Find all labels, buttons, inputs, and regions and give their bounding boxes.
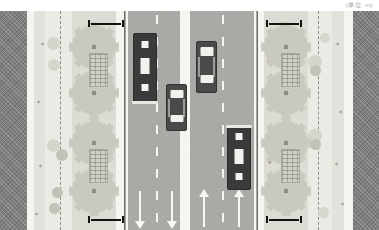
- arrow-shaft: [139, 191, 141, 223]
- planting-bed-right-upper: [281, 53, 300, 87]
- bus-bumper: [132, 101, 158, 104]
- right-property-dashed-line: [318, 11, 319, 230]
- arrow-lane-2: [165, 189, 179, 229]
- right-open-space: [308, 11, 332, 230]
- dimension-line: [91, 219, 121, 221]
- arrow-shaft: [203, 195, 205, 227]
- car-southbound-inner: [196, 41, 217, 93]
- car-windshield: [200, 47, 213, 56]
- bus-window: [141, 58, 150, 74]
- car-side-trim: [183, 99, 185, 117]
- street-tree-trunk: [283, 90, 290, 97]
- plant-sprig: ✶: [338, 109, 343, 115]
- car-rear-window: [200, 75, 213, 83]
- car-northbound-inner: [166, 84, 187, 131]
- street-tree-trunk: [91, 140, 98, 147]
- bus-window: [142, 84, 149, 91]
- planting-bed-right-lower: [281, 149, 300, 183]
- plant-sprig: ✶: [340, 201, 345, 207]
- drawing-caption: (单位: m): [346, 0, 373, 9]
- street-tree-trunk: [283, 140, 290, 147]
- dimension-end-cap: [88, 20, 90, 27]
- arrow-head-icon: [234, 189, 244, 197]
- right-building-block: [353, 11, 379, 230]
- street-tree-trunk: [283, 44, 290, 51]
- street-tree-trunk: [283, 188, 290, 195]
- dimension-line: [269, 23, 299, 25]
- plant-sprig: ✶: [335, 41, 340, 47]
- plant-sprig: ✶: [40, 41, 45, 47]
- arrow-lane-4: [232, 189, 246, 229]
- arrow-shaft: [171, 191, 173, 223]
- plant-sprig: ✶: [36, 99, 41, 105]
- dimension-line: [269, 219, 299, 221]
- dimension-left-top: [88, 20, 124, 27]
- dimension-right-bottom: [266, 216, 302, 223]
- left-kerb-line: [124, 11, 125, 230]
- shrub: [310, 65, 321, 76]
- arrow-lane-1: [133, 189, 147, 229]
- shrub: [320, 33, 330, 43]
- planting-bed-left-lower: [89, 149, 108, 183]
- arrow-shaft: [238, 195, 240, 227]
- arrow-head-icon: [199, 189, 209, 197]
- right-carriageway-lane-dash: [222, 15, 224, 226]
- bus-window: [236, 133, 243, 140]
- median-right-line: [188, 11, 190, 230]
- dimension-end-cap: [266, 216, 268, 223]
- right-kerb-line: [257, 11, 258, 230]
- street-tree-trunk: [91, 90, 98, 97]
- plant-sprig: ✶: [38, 163, 43, 169]
- arrow-lane-3: [197, 189, 211, 229]
- car-side-trim: [198, 57, 200, 77]
- dimension-end-cap: [122, 216, 124, 223]
- street-plan-drawing: ✶ ✶ ✶ ✶ ⇞ ⇞ ⇞ ⇞ ✶ ✶ ✶ ✶ ⇞ ⇞ ⇞ ⇞: [0, 11, 379, 230]
- right-setback-strip: [344, 11, 353, 230]
- bus-window: [235, 149, 244, 164]
- bus-southbound-outer: [227, 126, 251, 190]
- arrow-head-icon: [167, 221, 177, 229]
- bus-bumper: [226, 125, 252, 128]
- left-setback-strip: [27, 11, 34, 230]
- car-windshield: [170, 90, 183, 98]
- bus-northbound-outer: [133, 33, 157, 103]
- plant-sprig: ✶: [334, 161, 339, 167]
- shrub: [318, 207, 329, 218]
- shrub: [56, 149, 68, 161]
- dimension-end-cap: [300, 216, 302, 223]
- dimension-right-top: [266, 20, 302, 27]
- shrub: [49, 203, 60, 214]
- shrub: [310, 139, 321, 150]
- dimension-end-cap: [122, 20, 124, 27]
- bus-window: [236, 173, 243, 180]
- bus-window: [142, 41, 149, 48]
- arrow-head-icon: [135, 221, 145, 229]
- plant-sprig: ✶: [34, 211, 39, 217]
- dimension-end-cap: [300, 20, 302, 27]
- left-carriageway-edge-line: [126, 11, 128, 230]
- car-side-trim: [213, 57, 215, 77]
- shrub: [47, 37, 60, 50]
- car-rear-window: [170, 115, 183, 122]
- car-side-trim: [168, 99, 170, 117]
- left-building-block: [0, 11, 27, 230]
- street-tree-trunk: [91, 44, 98, 51]
- street-tree-trunk: [91, 188, 98, 195]
- planting-bed-left-upper: [89, 53, 108, 87]
- right-carriageway-edge-line: [254, 11, 256, 230]
- shrub: [48, 59, 60, 71]
- dimension-end-cap: [266, 20, 268, 27]
- dimension-end-cap: [88, 216, 90, 223]
- shrub: [52, 187, 63, 198]
- dimension-left-bottom: [88, 216, 124, 223]
- dimension-line: [91, 23, 121, 25]
